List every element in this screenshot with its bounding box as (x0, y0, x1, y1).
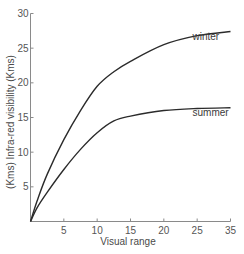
x-axis: 51015202535 (31, 219, 237, 236)
series-label-winter: winter (192, 31, 220, 42)
y-tick-label: 30 (17, 8, 29, 19)
x-tick-label: 20 (158, 225, 170, 236)
y-tick-label: 25 (17, 43, 29, 54)
x-tick-label: 15 (125, 225, 137, 236)
y-tick-label: 15 (17, 112, 29, 123)
y-tick-label: 20 (17, 77, 29, 88)
series-label-summer: summer (193, 107, 230, 118)
y-axis: 51015202530 (17, 8, 33, 222)
y-tick-label: 5 (23, 181, 29, 192)
x-tick-label: 10 (92, 225, 104, 236)
series-summer-line (31, 108, 231, 222)
series-group (31, 32, 231, 222)
x-tick-label: 5 (61, 225, 67, 236)
line-chart: 51015202530 51015202535 wintersummer (Km… (0, 0, 244, 254)
series-winter-line (31, 32, 231, 222)
series-labels: wintersummer (192, 31, 230, 118)
x-tick-label: 25 (192, 225, 204, 236)
y-axis-label: (Kms) Infra-red visibility (Kms) (5, 55, 16, 189)
x-tick-label: 35 (225, 225, 237, 236)
y-tick-label: 10 (17, 147, 29, 158)
x-axis-label: Visual range (100, 236, 156, 247)
